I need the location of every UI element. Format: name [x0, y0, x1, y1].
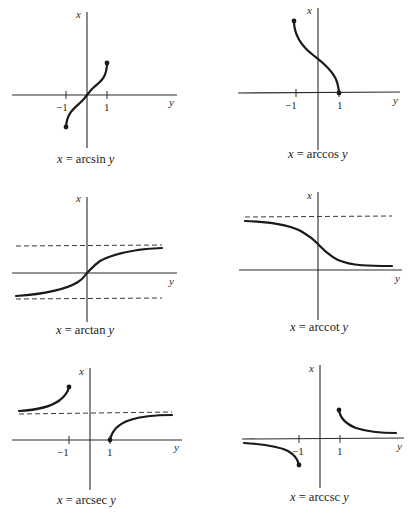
asymptote-upper [16, 245, 162, 246]
endpoint-bottom [337, 91, 342, 96]
graph-arccsc: −1 1 x y x = arccsc y [242, 362, 404, 504]
horizontal-axis-label: y [168, 275, 174, 287]
curve-arccsc-right [339, 410, 396, 433]
graph-arccos: −1 1 x y x = arccos y [238, 4, 400, 161]
tick-label-neg1: −1 [56, 101, 68, 113]
endpoint-left [67, 385, 72, 390]
horizontal-axis [242, 438, 404, 439]
tick-label-1: 1 [104, 101, 110, 113]
vertical-axis-label: x [306, 189, 312, 201]
horizontal-axis-label: y [392, 94, 398, 106]
caption-arccot: x = arccot y [289, 320, 349, 334]
horizontal-axis-label: y [173, 441, 179, 453]
curve-arctan [16, 248, 162, 296]
horizontal-axis-label: y [168, 96, 174, 108]
graph-arcsec: −1 1 x y x = arcsec y [12, 365, 182, 507]
horizontal-axis-label: y [396, 440, 402, 452]
vertical-axis-label: x [308, 362, 314, 374]
vertical-axis-label: x [306, 4, 312, 16]
graph-arctan: x y x = arctan y [12, 192, 177, 337]
curve-arcsec-left [19, 387, 69, 411]
horizontal-axis-label: y [394, 272, 400, 284]
asymptote-upper [245, 216, 392, 217]
tick-label-1: 1 [337, 99, 343, 111]
vertical-axis-label: x [78, 365, 84, 377]
tick-label-neg1: −1 [57, 446, 69, 458]
endpoint-top [105, 61, 110, 66]
tick-label-1: 1 [337, 445, 343, 457]
curve-arcsec-right [110, 415, 172, 440]
vertical-axis-label: x [75, 8, 81, 20]
curve-arccos [294, 21, 339, 93]
inverse-trig-figure: −1 1 x y x = arcsin y −1 1 x y x = arcco… [0, 0, 409, 514]
caption-arcsec: x = arcsec y [56, 493, 116, 507]
vertical-axis-label: x [75, 192, 81, 204]
endpoint-right [337, 408, 342, 413]
graph-arccot: x y x = arccot y [239, 189, 402, 334]
caption-arctan: x = arctan y [55, 323, 115, 337]
horizontal-axis [238, 92, 400, 93]
endpoint-top [292, 19, 297, 24]
endpoint-right [108, 438, 113, 443]
asymptote [19, 412, 172, 414]
caption-arccsc: x = arccsc y [289, 490, 349, 504]
caption-arcsin: x = arcsin y [56, 152, 115, 166]
curve-arccsc-left [244, 443, 299, 465]
asymptote-lower [16, 298, 162, 299]
endpoint-left [297, 463, 302, 468]
tick-label-neg1: −1 [285, 99, 297, 111]
caption-arccos: x = arccos y [287, 147, 348, 161]
endpoint-bottom [64, 125, 69, 130]
graph-arcsin: −1 1 x y x = arcsin y [12, 8, 177, 166]
tick-label-1: 1 [107, 446, 113, 458]
